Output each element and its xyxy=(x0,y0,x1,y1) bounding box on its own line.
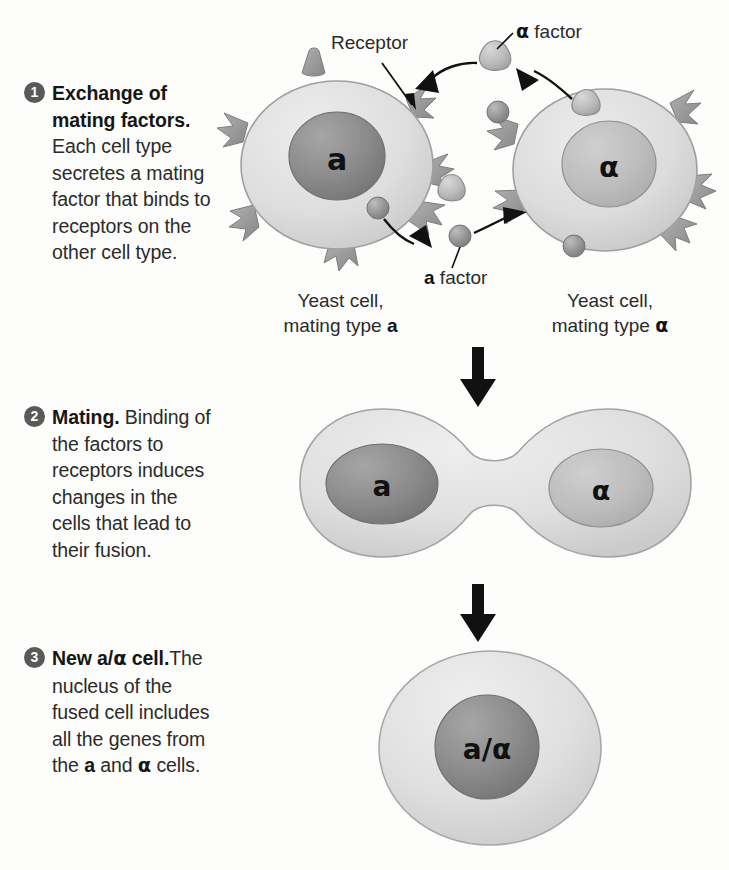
alpha-factor-blob-icon xyxy=(572,89,600,115)
left-cell-caption-line2-pre: mating type xyxy=(283,315,387,336)
stage-transition-arrow-1 xyxy=(460,347,496,407)
receptor-icon xyxy=(229,205,259,241)
alpha-factor-label-text: factor xyxy=(529,21,582,42)
new-cell-nucleus-label: a/α xyxy=(463,733,511,766)
receptor-icon xyxy=(406,85,436,118)
step-1-badge: 1 xyxy=(24,82,45,103)
fused-cell-nucleus-alpha xyxy=(549,449,653,527)
step-2: 2 Mating. Binding of the factors to rece… xyxy=(24,404,220,563)
step-2-badge: 2 xyxy=(24,406,45,427)
cell-alpha-nucleus-label: α xyxy=(599,150,619,184)
yeast-cell-a-body xyxy=(241,81,433,249)
step-3-body-part2: and xyxy=(95,754,138,776)
left-cell-caption: Yeast cell, mating type a xyxy=(258,288,423,338)
yeast-cell-alpha-nucleus xyxy=(562,121,656,207)
receptor-label: Receptor xyxy=(331,30,408,55)
fused-cell-nucleus-a xyxy=(326,444,438,524)
step-3-text: New a/α cell.The nucleus of the fused ce… xyxy=(52,645,220,780)
receptor-icon xyxy=(687,174,716,209)
a-factor-label-text: factor xyxy=(435,267,488,288)
receptor-icon xyxy=(670,90,701,124)
step-3-heading-post: cell. xyxy=(126,647,169,669)
step-2-heading: Mating. xyxy=(52,406,120,428)
arrow-center-to-alpha xyxy=(474,216,509,233)
arrow-a-to-center xyxy=(384,219,414,244)
step-2-text: Mating. Binding of the factors to recept… xyxy=(52,404,220,563)
stage1-group: a α xyxy=(217,33,716,271)
right-cell-caption-symbol: α xyxy=(655,314,668,336)
arrowhead-icon xyxy=(409,225,432,248)
alpha-factor-free-icon xyxy=(479,41,511,71)
right-cell-caption-line1: Yeast cell, xyxy=(525,288,695,313)
stage2-group: a α xyxy=(300,409,691,557)
arrowhead-icon xyxy=(503,207,527,224)
a-factor-labeled-particle-icon xyxy=(449,225,471,247)
right-cell-caption-line2: mating type α xyxy=(525,313,695,338)
a-factor-label: a factor xyxy=(424,265,487,290)
receptor-icon xyxy=(424,154,454,188)
alpha-factor-label: α factor xyxy=(516,19,582,44)
step-1-heading: Exchange of mating factors. xyxy=(52,82,190,131)
receptor-icon xyxy=(660,217,697,251)
receptor-icon xyxy=(324,241,358,271)
step-1-body: Each cell type secretes a mating factor … xyxy=(52,135,210,263)
step-3-heading-pre: New a/ xyxy=(52,647,113,669)
step-3-badge: 3 xyxy=(24,647,45,668)
left-cell-caption-line1: Yeast cell, xyxy=(258,288,423,313)
alpha-factor-transit-icon xyxy=(438,174,465,200)
fused-nucleus-a-label: a xyxy=(373,470,392,503)
receptor-icon xyxy=(493,190,525,224)
stage3-group: a/α xyxy=(379,651,601,845)
alpha-factor-leader-line xyxy=(497,33,513,49)
alpha-factor-label-symbol: α xyxy=(516,20,529,42)
arrowhead-icon xyxy=(516,68,539,91)
fused-cell-body xyxy=(300,409,691,557)
arrow-alphacell-to-factor xyxy=(534,71,572,99)
step-1-text: Exchange of mating factors. Each cell ty… xyxy=(52,80,220,266)
a-factor-particle-icon xyxy=(367,197,389,219)
step-3: 3 New a/α cell.The nucleus of the fused … xyxy=(24,645,220,780)
stage-transition-arrow-2 xyxy=(460,584,496,642)
fused-nucleus-alpha-label: α xyxy=(592,475,611,506)
yeast-cell-a-nucleus xyxy=(289,112,385,200)
figure-canvas: a α xyxy=(0,0,729,870)
receptor-icon xyxy=(217,113,248,147)
receptor-leader-tip-icon xyxy=(404,93,416,110)
receptor-icon xyxy=(302,48,325,76)
step-3-heading: New a/α cell. xyxy=(52,647,169,669)
step-3-body-a: a xyxy=(84,754,95,776)
receptor-icon xyxy=(409,202,445,235)
cell-a-receptors xyxy=(217,48,454,271)
step-1: 1 Exchange of mating factors. Each cell … xyxy=(24,80,220,266)
receptor-leader-line xyxy=(382,63,412,105)
step-3-body-alpha: α xyxy=(138,754,151,777)
step-3-heading-symbol: α xyxy=(113,647,126,670)
right-cell-caption: Yeast cell, mating type α xyxy=(525,288,695,338)
a-factor-bound-particle-icon xyxy=(563,235,585,257)
right-cell-caption-line2-pre: mating type xyxy=(552,315,656,336)
left-cell-caption-line2: mating type a xyxy=(258,313,423,338)
a-factor-free-particle-icon xyxy=(487,101,509,123)
new-cell-body xyxy=(379,651,601,845)
cell-a-nucleus-label: a xyxy=(327,142,347,177)
step-2-body: Binding of the factors to receptors indu… xyxy=(52,406,211,561)
arrow-alpha-to-a xyxy=(431,63,477,79)
a-factor-label-symbol: a xyxy=(424,267,435,288)
cell-alpha-receptors xyxy=(487,90,716,251)
new-cell-nucleus xyxy=(435,695,539,799)
left-cell-caption-symbol: a xyxy=(387,315,398,336)
receptor-icon xyxy=(487,116,518,150)
yeast-cell-alpha-body xyxy=(513,89,697,251)
step-3-body-part3: cells. xyxy=(151,754,200,776)
arrowhead-icon xyxy=(415,70,439,93)
